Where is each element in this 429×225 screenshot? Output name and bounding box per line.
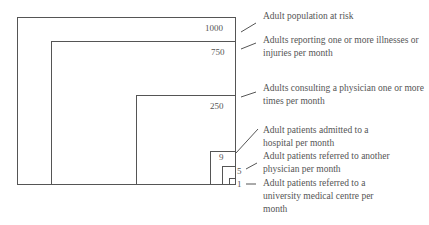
label-referred: Adult patients referred to another physi… — [263, 150, 413, 176]
label-consulting: Adults consulting a physician one or mor… — [263, 82, 429, 108]
label-illness: Adults reporting one or more illnesses o… — [263, 34, 429, 60]
label-admitted: Adult patients admitted to a hospital pe… — [263, 124, 383, 150]
label-university: Adult patients referred to a university … — [263, 177, 388, 216]
label-population: Adult population at risk — [263, 10, 429, 23]
